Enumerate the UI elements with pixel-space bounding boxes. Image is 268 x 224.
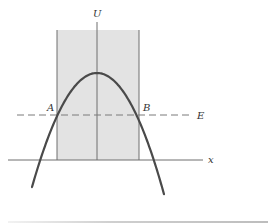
energy-label: E xyxy=(196,110,205,121)
u-axis-label: U xyxy=(93,8,102,19)
turning-point-b-label: B xyxy=(142,102,150,113)
turning-point-a-label: A xyxy=(46,102,54,113)
x-axis-label: x xyxy=(208,154,214,165)
bottom-rule-divider xyxy=(8,221,268,223)
potential-energy-diagram: U x E A B xyxy=(0,0,268,224)
